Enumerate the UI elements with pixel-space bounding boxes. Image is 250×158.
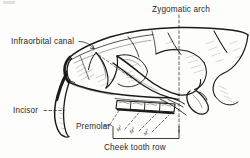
- zygomatic-arch-lower: [113, 63, 178, 99]
- tooth-cusp-1: [120, 102, 130, 104]
- label-infraorbital-canal: Infraorbital canal: [11, 37, 74, 46]
- leader-infraorbital-canal: [79, 42, 94, 49]
- label-zygomatic-arch: Zygomatic arch: [152, 5, 210, 14]
- tooth-cusp-3: [147, 104, 157, 106]
- incisor-tip: [65, 137, 69, 138]
- zygomatic-arch-upper: [117, 56, 179, 95]
- temporal-ridge: [156, 50, 204, 63]
- tooth-divider-3: [160, 103, 161, 111]
- occipital-outline: [223, 35, 248, 74]
- label-premolar: Premolar: [76, 122, 110, 131]
- incisor-posterior-edge: [64, 80, 70, 137]
- bulla-inner-line: [193, 95, 202, 108]
- tooth-divider-1: [130, 101, 131, 109]
- tooth-divider-2: [144, 102, 145, 110]
- label-cheek-tooth-row: Cheek tooth row: [104, 143, 166, 152]
- occipital-ridge: [214, 31, 227, 53]
- squamosal-junction: [179, 80, 201, 96]
- label-incisor: Incisor: [13, 106, 38, 115]
- paroccipital-process: [215, 96, 238, 105]
- shading-hatch-braincase: [166, 41, 242, 73]
- zygomatic-plate-front: [89, 53, 97, 70]
- shading-hatch-rostrum: [76, 64, 94, 80]
- tooth-cusp-2: [133, 103, 143, 105]
- frontoparietal-suture: [152, 31, 156, 54]
- infraorbital-canal-opening: [96, 53, 108, 89]
- shading-hatch-occipital: [219, 86, 234, 103]
- frontal-suture: [128, 37, 139, 58]
- occipital-condyle: [213, 74, 223, 97]
- skull-illustration: [0, 0, 250, 158]
